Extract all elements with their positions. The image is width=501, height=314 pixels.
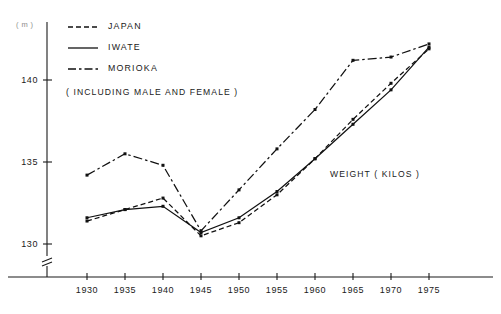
y-axis-unit-label: ( m ) [16,20,34,29]
axis-break-icon [42,248,52,277]
data-point [124,208,127,211]
data-point [162,205,165,208]
data-point [314,157,317,160]
x-tick-label: 1945 [190,285,212,295]
y-tick-label: 130 [21,239,38,249]
series-line-japan [87,49,429,236]
data-point [390,56,393,59]
x-tick-label: 1935 [114,285,136,295]
data-point [238,216,241,219]
legend-label-morioka: MORIOKA [108,63,158,73]
x-tick-label: 1955 [266,285,288,295]
y-tick-label: 135 [21,157,38,167]
x-tick-label: 1930 [76,285,98,295]
chart-canvas: 130135140 193019351940194519501955196019… [0,0,501,314]
x-tick-group: 1930193519401945195019551960196519701975 [76,273,440,295]
x-tick-label: 1975 [418,285,440,295]
data-point [276,190,279,193]
x-tick-label: 1965 [342,285,364,295]
data-point [86,216,89,219]
data-point [200,234,203,237]
x-tick-label: 1940 [152,285,174,295]
data-point [86,174,89,177]
data-point [200,229,203,232]
y-axis: 130135140 [21,22,52,277]
data-point [352,123,355,126]
data-point [238,221,241,224]
data-point [86,220,89,223]
data-point [428,46,431,49]
x-tick-label: 1950 [228,285,250,295]
x-tick-label: 1970 [380,285,402,295]
inclusion-note: ( INCLUDING MALE AND FEMALE ) [66,87,238,97]
weight-chart: 130135140 193019351940194519501955196019… [0,0,501,314]
data-point [428,42,431,45]
data-point [390,88,393,91]
legend-label-japan: JAPAN [108,21,142,31]
data-point [124,152,127,155]
data-point [352,59,355,62]
series-line-iwate [87,47,429,232]
chart-legend: JAPANIWATEMORIOKA [68,21,158,73]
data-point [314,108,317,111]
data-point [238,188,241,191]
data-point [162,164,165,167]
x-axis: 1930193519401945195019551960196519701975 [8,273,493,295]
data-point [162,197,165,200]
y-tick-label: 140 [21,75,38,85]
data-point [352,118,355,121]
data-point [390,82,393,85]
x-tick-label: 1960 [304,285,326,295]
weight-units-note: WEIGHT ( KILOS ) [330,169,420,179]
data-point [276,193,279,196]
data-point [276,147,279,150]
legend-label-iwate: IWATE [108,42,141,52]
